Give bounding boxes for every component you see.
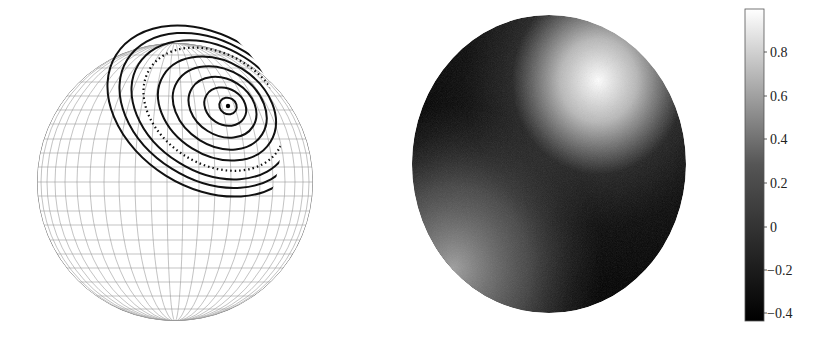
colorbar-tick: 0: [770, 220, 777, 235]
colorbar-tick: 0.8: [770, 45, 788, 60]
contour-rings: [76, 0, 336, 232]
colorbar-tick: 0.6: [770, 89, 788, 104]
colorbar-tick: 0.4: [770, 132, 788, 147]
center-dot: [226, 104, 230, 108]
colorbar-tick: −0.4: [767, 306, 792, 321]
figure: 0.8 0.6 0.4 0.2 0 −0.2 −0.4: [0, 0, 839, 340]
colorbar-tick: 0.2: [770, 176, 788, 191]
colorbar-tick: −0.2: [767, 263, 792, 278]
shaded-sphere: [412, 15, 686, 313]
colorbar: 0.8 0.6 0.4 0.2 0 −0.2 −0.4: [745, 9, 792, 321]
